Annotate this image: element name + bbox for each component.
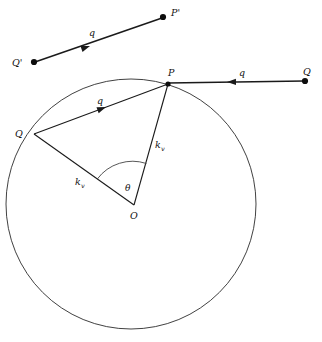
point-dot-p bbox=[165, 81, 170, 86]
label-q-right: q bbox=[239, 67, 245, 78]
segment-qprime-pprime bbox=[35, 18, 162, 62]
label-origin: O bbox=[130, 210, 138, 221]
scattering-geometry-figure: P' Q' q P Q q q Q k v k v θ O bbox=[0, 0, 322, 342]
label-p-prime: P' bbox=[170, 7, 180, 18]
arrowhead-q-right bbox=[227, 79, 236, 86]
segment-o-qcircle bbox=[34, 134, 134, 205]
label-q-top: q bbox=[89, 27, 95, 38]
label-p: P bbox=[167, 67, 175, 78]
label-kv-left-sub: v bbox=[81, 182, 85, 190]
label-kv-right: k v bbox=[155, 139, 165, 153]
label-q-circle: Q bbox=[15, 128, 23, 139]
point-dot-qprime bbox=[31, 59, 37, 65]
label-kv-left: k v bbox=[75, 176, 85, 190]
point-dot-qright bbox=[302, 78, 308, 84]
label-theta: θ bbox=[125, 183, 131, 193]
label-q-inner: q bbox=[97, 95, 103, 106]
label-kv-right-sub: v bbox=[161, 145, 165, 153]
label-q-right-point: Q bbox=[303, 66, 311, 77]
ewald-circle bbox=[6, 79, 256, 329]
label-q-prime: Q' bbox=[12, 57, 22, 68]
point-dot-pprime bbox=[160, 14, 166, 20]
angle-arc-theta bbox=[97, 161, 146, 179]
